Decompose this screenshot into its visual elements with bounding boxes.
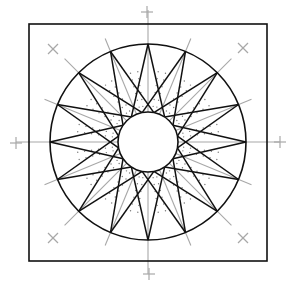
inner-circle xyxy=(118,112,178,172)
star-edge xyxy=(173,142,246,159)
guide-line xyxy=(105,170,136,246)
guide-line xyxy=(45,99,121,130)
star-edge xyxy=(50,125,123,142)
cross-mark xyxy=(48,44,58,54)
star-edge xyxy=(79,148,119,211)
cross-mark xyxy=(238,233,248,243)
star-edge xyxy=(148,167,165,240)
star-edge xyxy=(177,148,217,211)
guide-line xyxy=(45,153,121,184)
star-edge xyxy=(131,167,148,240)
star-edge xyxy=(154,171,217,211)
star-edge xyxy=(148,44,165,117)
star-edge xyxy=(79,73,119,136)
compass-diagram xyxy=(0,0,294,289)
plus-mark xyxy=(274,136,286,148)
star-edge xyxy=(79,171,142,211)
guide-line xyxy=(176,99,252,130)
star-edge xyxy=(79,73,142,113)
plus-mark xyxy=(10,137,22,149)
cross-mark xyxy=(238,43,248,53)
star-edge xyxy=(177,73,217,136)
guide-line xyxy=(176,153,252,184)
guide-line xyxy=(105,39,136,115)
star-edge xyxy=(173,125,246,142)
star-edge xyxy=(50,142,123,159)
star-edge xyxy=(131,44,148,117)
star-edge xyxy=(154,73,217,113)
guide-line xyxy=(159,39,190,115)
plus-mark xyxy=(141,6,153,18)
guide-line xyxy=(159,170,190,246)
cross-mark xyxy=(48,233,58,243)
plus-mark xyxy=(143,268,155,280)
